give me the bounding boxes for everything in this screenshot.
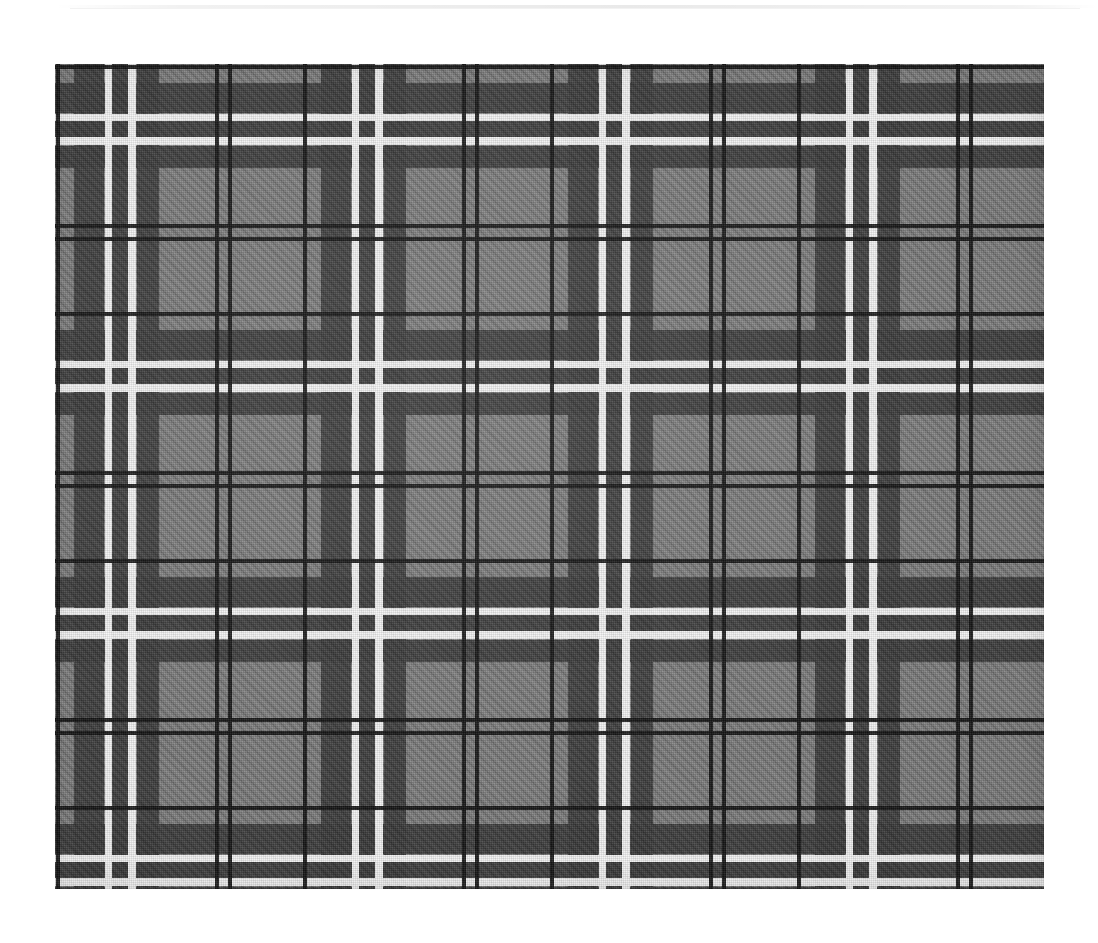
warp-charcoal-stripes — [55, 64, 1044, 889]
warp-yarn-grain-texture — [55, 64, 1044, 889]
fabric-ground-layer — [55, 64, 1044, 889]
weft-black-pin-stripes — [55, 64, 1044, 889]
weft-yarn-grain-texture — [55, 64, 1044, 889]
warp-white-guard-stripes — [55, 64, 1044, 889]
swatch-edge-vignette — [55, 64, 1044, 889]
weft-white-guard-stripes — [55, 64, 1044, 889]
tartan-fabric-swatch — [55, 64, 1044, 889]
weft-charcoal-stripes — [55, 64, 1044, 889]
page-top-divider-hairline — [70, 8, 1080, 9]
photographic-shading-overlay — [55, 64, 1044, 889]
twill-diagonal-weave-texture — [55, 64, 1044, 889]
warp-black-pin-stripes — [55, 64, 1044, 889]
